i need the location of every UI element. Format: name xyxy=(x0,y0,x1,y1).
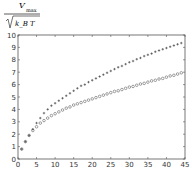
svg-text:0: 0 xyxy=(16,161,20,169)
svg-text:20: 20 xyxy=(88,161,97,169)
svg-text:2: 2 xyxy=(12,131,16,139)
svg-text:8: 8 xyxy=(12,56,16,64)
svg-text:6: 6 xyxy=(12,81,17,89)
svg-text:9: 9 xyxy=(12,44,16,52)
svg-text:25: 25 xyxy=(106,161,115,169)
svg-text:k_B T: k_B T xyxy=(15,20,36,28)
svg-text:10: 10 xyxy=(51,161,60,169)
svg-text:40: 40 xyxy=(162,161,171,169)
svg-text:30: 30 xyxy=(125,161,134,169)
svg-text:5: 5 xyxy=(34,161,38,169)
data-points xyxy=(20,42,182,151)
svg-text:5: 5 xyxy=(12,94,16,102)
svg-text:4: 4 xyxy=(12,106,17,114)
y-axis-label: V max k_B T xyxy=(2,0,42,30)
svg-text:35: 35 xyxy=(143,161,152,169)
svg-text:max: max xyxy=(26,7,37,13)
svg-text:7: 7 xyxy=(12,69,16,77)
svg-text:1: 1 xyxy=(12,143,16,151)
axes-frame xyxy=(18,35,185,159)
svg-text:15: 15 xyxy=(69,161,78,169)
svg-text:10: 10 xyxy=(7,32,16,40)
svg-text:3: 3 xyxy=(12,118,16,126)
tick-labels: 051015202530354045012345678910 xyxy=(7,32,189,170)
svg-text:0: 0 xyxy=(12,156,16,164)
svg-text:45: 45 xyxy=(181,161,190,169)
